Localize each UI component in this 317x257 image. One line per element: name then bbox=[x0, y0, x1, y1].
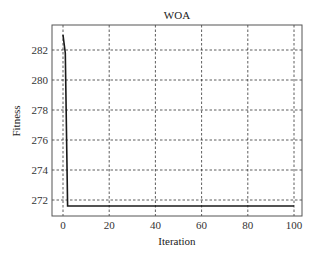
plot-area-frame bbox=[52, 25, 302, 216]
x-tick-label: 40 bbox=[150, 219, 162, 231]
y-axis-ticks: 272274276278280282 bbox=[32, 44, 49, 206]
x-axis-ticks: 020406080100 bbox=[60, 219, 303, 231]
y-tick-label: 276 bbox=[32, 134, 49, 146]
y-tick-label: 274 bbox=[32, 164, 49, 176]
y-axis-label: Fitness bbox=[10, 105, 22, 136]
chart-title: WOA bbox=[164, 9, 190, 21]
x-tick-label: 60 bbox=[196, 219, 208, 231]
y-tick-label: 282 bbox=[32, 44, 49, 56]
y-tick-label: 280 bbox=[32, 74, 49, 86]
grid-lines bbox=[52, 25, 302, 216]
series-line bbox=[63, 35, 294, 206]
y-tick-label: 278 bbox=[32, 104, 49, 116]
x-tick-label: 20 bbox=[104, 219, 116, 231]
x-tick-label: 0 bbox=[60, 219, 66, 231]
fitness-chart: WOA 272274276278280282 020406080100 Iter… bbox=[0, 0, 317, 257]
x-axis-label: Iteration bbox=[158, 235, 196, 247]
x-tick-label: 80 bbox=[242, 219, 254, 231]
fitness-curve bbox=[63, 35, 294, 206]
y-tick-label: 272 bbox=[32, 194, 49, 206]
x-tick-label: 100 bbox=[286, 219, 303, 231]
